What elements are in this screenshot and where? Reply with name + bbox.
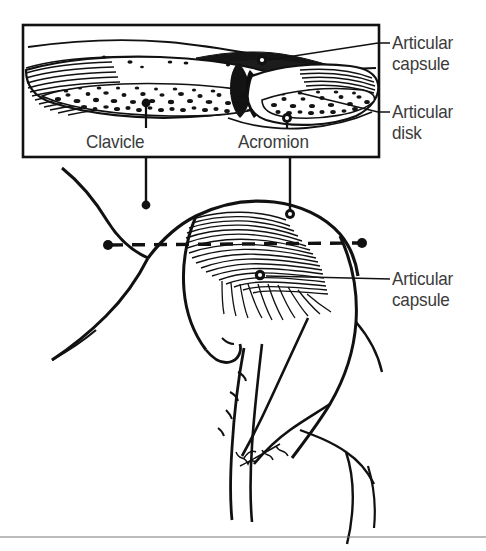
clavicle-shoulder-dot: [142, 201, 151, 210]
acromion-anchor-ring-inner: [285, 116, 289, 120]
label-clavicle: Clavicle: [86, 131, 144, 152]
shoulder-line-drawing: [52, 168, 382, 544]
anatomical-figure: Articular capsule Articular disk Articul…: [0, 0, 486, 551]
scapula-medial-sweep: [242, 318, 308, 456]
section-plane-left-dot: [103, 240, 113, 250]
humerus-lateral-line: [251, 344, 263, 522]
acromion-hatch-group: [186, 212, 328, 294]
lateral-sweep: [356, 322, 382, 372]
label-articular-disk: Articular disk: [392, 101, 453, 143]
section-plane-right-dot: [357, 238, 367, 248]
arm-lateral-line: [346, 452, 353, 544]
deltoid-anterior-contour: [184, 216, 207, 350]
acromion-shoulder-ring-inner: [288, 212, 292, 216]
label-articular-capsule-lower: Articular capsule: [392, 268, 453, 310]
label-articular-capsule-inset: Articular capsule: [392, 32, 453, 74]
lower-capsule-ring-inner: [258, 273, 262, 277]
capsule-anchor-ring-inner: [260, 58, 264, 62]
label-acromion: Acromion: [238, 131, 309, 152]
latissimus-contour: [300, 430, 374, 484]
scapula-lateral-border: [292, 236, 356, 458]
coracoid-hook: [206, 344, 241, 363]
chest-wall-contour: [52, 258, 148, 360]
